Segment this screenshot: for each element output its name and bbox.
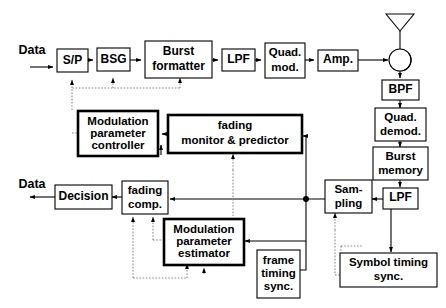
- label-data-input: Data: [18, 43, 46, 57]
- block-bsg[interactable]: BSG: [97, 48, 130, 71]
- block-lpf-tx[interactable]: LPF: [222, 49, 255, 71]
- block-amp[interactable]: Amp.: [318, 50, 358, 71]
- block-fading-monitor-predictor[interactable]: fading monitor & predictor: [168, 115, 302, 153]
- antenna-icon: [386, 14, 414, 49]
- block-quad-mod-label-2: mod.: [271, 61, 298, 73]
- block-fading-comp-label-1: fading: [128, 184, 163, 196]
- block-burst-formatter[interactable]: Burst formatter: [145, 41, 212, 78]
- label-data-output: Data: [18, 177, 46, 191]
- block-modulation-parameter-estimator-label-1: Modulation: [173, 223, 234, 235]
- block-lpf-rx-label: LPF: [389, 190, 412, 204]
- block-decision[interactable]: Decision: [55, 185, 112, 209]
- block-lpf-tx-label: LPF: [227, 52, 250, 66]
- block-sampling[interactable]: Sam- pling: [325, 180, 372, 213]
- transceiver-block-diagram: S/P BSG Burst formatter LPF Quad. mod. A…: [0, 0, 446, 308]
- block-diagram-canvas: S/P BSG Burst formatter LPF Quad. mod. A…: [0, 0, 446, 308]
- block-sampling-label-1: Sam-: [334, 183, 362, 195]
- control-bus-top: [72, 88, 180, 110]
- block-frame-timing-sync-label-3: sync.: [264, 280, 293, 292]
- block-modulation-parameter-controller-label-1: Modulation: [87, 115, 148, 127]
- block-amp-label: Amp.: [323, 52, 353, 66]
- link-sampling-branch-to-estimator: [245, 199, 306, 241]
- antenna-triangle: [386, 14, 414, 31]
- block-sampling-label-2: pling: [335, 197, 362, 209]
- block-bpf[interactable]: BPF: [382, 80, 419, 100]
- block-symbol-timing-sync-label-1: Symbol timing: [349, 256, 428, 268]
- block-quad-demod-label-2: demod.: [380, 125, 421, 137]
- block-fading-comp[interactable]: fading comp.: [122, 181, 168, 214]
- block-modulation-parameter-estimator[interactable]: Modulation parameter estimator: [164, 219, 244, 265]
- block-quad-demod-label-1: Quad.: [384, 111, 417, 123]
- block-bsg-label: BSG: [100, 52, 126, 66]
- block-symbol-timing-sync-label-2: sync.: [374, 270, 403, 282]
- block-modulation-parameter-controller-label-2: parameter: [90, 127, 146, 139]
- block-symbol-timing-sync[interactable]: Symbol timing sync.: [340, 253, 437, 287]
- block-decision-label: Decision: [58, 189, 108, 203]
- block-modulation-parameter-controller[interactable]: Modulation parameter controller: [78, 111, 158, 156]
- block-frame-timing-sync-label-1: frame: [263, 254, 294, 266]
- block-fading-comp-label-2: comp.: [128, 198, 162, 210]
- block-fading-monitor-predictor-label-2: monitor & predictor: [181, 134, 289, 146]
- block-modulation-parameter-controller-label-3: controller: [91, 139, 145, 151]
- block-lpf-rx[interactable]: LPF: [383, 188, 418, 209]
- block-bpf-label: BPF: [389, 82, 413, 96]
- block-burst-memory-label-2: memory: [378, 164, 423, 176]
- block-quad-mod-label-1: Quad.: [269, 46, 302, 58]
- block-quad-demod[interactable]: Quad. demod.: [375, 108, 426, 141]
- block-burst-memory-label-1: Burst: [385, 150, 415, 162]
- block-frame-timing-sync-label-2: timing: [261, 267, 296, 279]
- block-modulation-parameter-estimator-label-2: parameter: [176, 235, 232, 247]
- block-burst-memory[interactable]: Burst memory: [373, 147, 428, 180]
- block-burst-formatter-label-1: Burst: [163, 44, 194, 58]
- block-burst-formatter-label-2: formatter: [152, 59, 205, 73]
- block-sp-label: S/P: [63, 53, 82, 67]
- block-frame-timing-sync[interactable]: frame timing sync.: [257, 250, 300, 298]
- block-sp[interactable]: S/P: [57, 49, 88, 72]
- block-fading-monitor-predictor-label-1: fading: [218, 119, 253, 131]
- block-modulation-parameter-estimator-label-3: estimator: [178, 247, 230, 259]
- circulator-icon: [389, 49, 411, 78]
- block-quad-mod[interactable]: Quad. mod.: [265, 43, 305, 78]
